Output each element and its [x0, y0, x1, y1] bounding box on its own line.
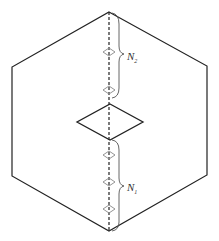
lower-label: N1	[126, 181, 137, 195]
upper-label: N2	[126, 50, 137, 64]
lower-brace	[112, 140, 124, 231]
central-rhombus	[77, 104, 143, 140]
upper-brace	[112, 13, 124, 98]
hexagon-diagram: N2 N1	[0, 0, 219, 241]
